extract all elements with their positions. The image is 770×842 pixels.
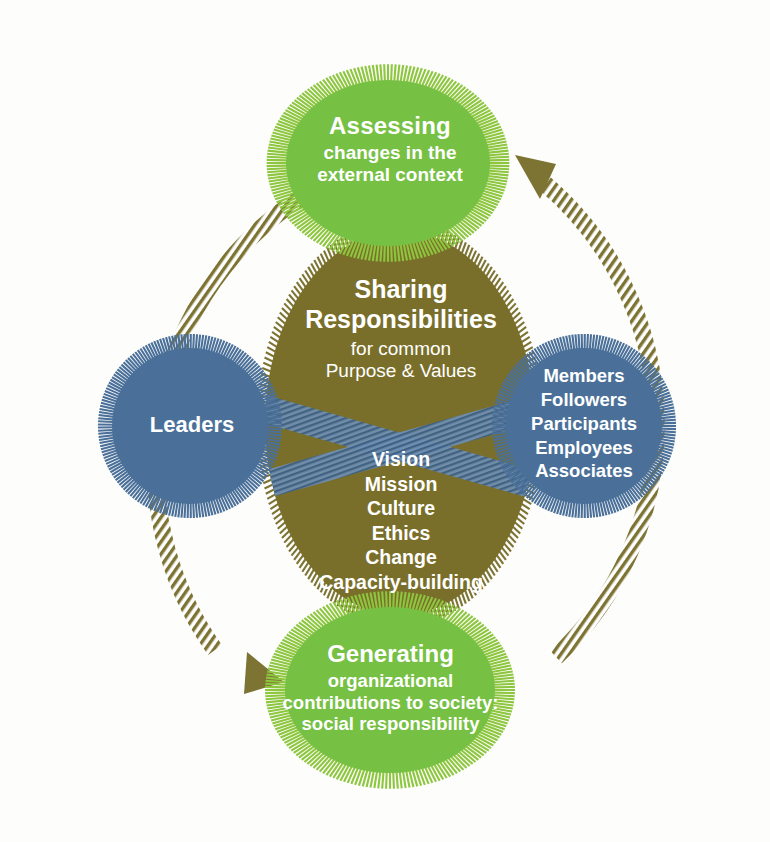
diagram-canvas	[0, 0, 770, 842]
left-node-group[interactable]	[98, 334, 282, 518]
bottom-node-group[interactable]	[265, 591, 515, 789]
top-node-ellipse[interactable]	[286, 80, 490, 246]
right-node-circle[interactable]	[506, 348, 662, 504]
leadership-cycle-diagram: Assessing changes in the external contex…	[0, 0, 770, 842]
left-node-circle[interactable]	[112, 348, 268, 504]
bottom-node-ellipse[interactable]	[285, 607, 495, 773]
top-node-group[interactable]	[267, 64, 510, 262]
